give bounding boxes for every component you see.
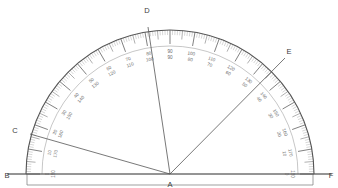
scale-tick-129 [79, 62, 82, 66]
scale-tick-144 [54, 89, 58, 92]
scale-tick-166 [30, 139, 35, 140]
scale-tick-112 [116, 40, 118, 45]
scale-tick-29 [292, 104, 296, 106]
scale-number-outer-90: 90 [167, 49, 173, 54]
scale-tick-133 [72, 69, 75, 73]
scale-tick-58 [244, 52, 247, 56]
scale-tick-147 [49, 96, 53, 99]
scale-tick-79 [197, 33, 198, 38]
scale-tick-7 [308, 156, 313, 157]
scale-tick-70 [214, 39, 219, 52]
scale-number-outer-170: 10 [47, 149, 53, 155]
scale-tick-42 [273, 78, 277, 81]
scale-tick-143 [55, 87, 59, 90]
point-label-D: D [144, 6, 150, 15]
scale-number-inner-180: 180 [51, 170, 56, 178]
scale-number-inner-30: 30 [267, 112, 274, 119]
scale-tick-100 [145, 32, 147, 46]
scale-tick-10 [298, 149, 312, 151]
scale-tick-128 [81, 61, 84, 65]
scale-tick-153 [42, 109, 46, 111]
scale-tick-124 [89, 55, 92, 59]
scale-number-outer-100: 80 [146, 51, 152, 57]
scale-tick-102 [140, 33, 141, 38]
scale-tick-83 [187, 31, 188, 36]
protractor-inner-arc [42, 46, 298, 174]
scale-tick-161 [34, 127, 39, 129]
scale-tick-156 [38, 115, 43, 117]
scale-tick-121 [96, 51, 99, 55]
scale-tick-169 [29, 147, 34, 148]
scale-tick-75 [205, 35, 207, 44]
scale-tick-43 [272, 76, 276, 79]
scale-tick-66 [227, 42, 229, 47]
scale-tick-118 [102, 47, 104, 51]
scale-tick-145 [52, 91, 59, 96]
scale-tick-49 [261, 65, 264, 69]
scale-tick-149 [47, 100, 51, 103]
scale-tick-36 [282, 89, 286, 92]
scale-tick-111 [118, 40, 120, 45]
scale-tick-122 [94, 52, 97, 56]
scale-tick-39 [278, 83, 282, 86]
scale-tick-165 [31, 137, 40, 139]
scale-tick-148 [48, 98, 52, 101]
scale-tick-21 [300, 122, 305, 124]
scale-tick-55 [247, 56, 252, 63]
point-label-F: F [329, 171, 334, 180]
scale-tick-103 [138, 34, 139, 39]
scale-tick-53 [254, 59, 257, 63]
scale-number-inner-0: 0 [284, 173, 289, 176]
scale-tick-38 [280, 85, 284, 88]
scale-tick-108 [126, 37, 128, 42]
scale-tick-170 [28, 149, 42, 151]
scale-number-inner-80: 80 [187, 57, 193, 63]
scale-numbers-group: 1800170101602015030140401305012060110701… [45, 49, 295, 178]
scale-tick-80 [193, 32, 195, 46]
scale-tick-98 [150, 31, 151, 36]
protractor-canvas: 1800170101602015030140401305012060110701… [0, 0, 338, 188]
point-label-A: A [167, 180, 172, 188]
scale-number-outer-180: 0 [45, 172, 50, 175]
scale-tick-126 [85, 58, 88, 62]
scale-tick-31 [289, 100, 293, 103]
scale-tick-37 [281, 87, 285, 90]
scale-number-inner-170: 170 [52, 149, 58, 158]
scale-tick-160 [35, 125, 48, 130]
scale-tick-45 [265, 72, 271, 78]
scale-tick-32 [288, 98, 292, 101]
scale-tick-12 [306, 144, 311, 145]
scale-tick-146 [51, 93, 55, 96]
point-label-B: B [4, 171, 9, 180]
scale-tick-13 [305, 142, 310, 143]
scale-tick-157 [37, 118, 42, 120]
scale-tick-30 [283, 102, 295, 109]
scale-tick-105 [133, 35, 135, 44]
scale-tick-69 [220, 40, 222, 45]
scale-tick-78 [199, 33, 200, 38]
scale-tick-127 [83, 59, 86, 63]
scale-tick-59 [242, 51, 245, 55]
scale-tick-96 [155, 31, 156, 36]
scale-tick-117 [105, 46, 107, 50]
scale-tick-20 [292, 125, 305, 130]
point-label-E: E [286, 47, 291, 56]
point-labels-group: BAFCDE [4, 6, 333, 188]
scale-tick-72 [213, 37, 215, 42]
scale-tick-167 [30, 142, 35, 143]
scale-tick-104 [135, 34, 136, 39]
scale-tick-82 [189, 31, 190, 36]
scale-tick-81 [192, 32, 193, 37]
scale-tick-57 [246, 53, 249, 57]
protractor-figure: 1800170101602015030140401305012060110701… [0, 0, 338, 188]
scale-tick-158 [36, 120, 41, 122]
scale-tick-64 [231, 45, 233, 49]
scale-tick-134 [70, 70, 73, 74]
scale-tick-159 [36, 122, 41, 124]
scale-tick-123 [92, 53, 95, 57]
scale-tick-68 [222, 40, 224, 45]
scale-tick-56 [248, 55, 251, 59]
scale-tick-99 [147, 32, 148, 37]
scale-tick-151 [44, 104, 48, 106]
scale-tick-150 [45, 102, 57, 109]
